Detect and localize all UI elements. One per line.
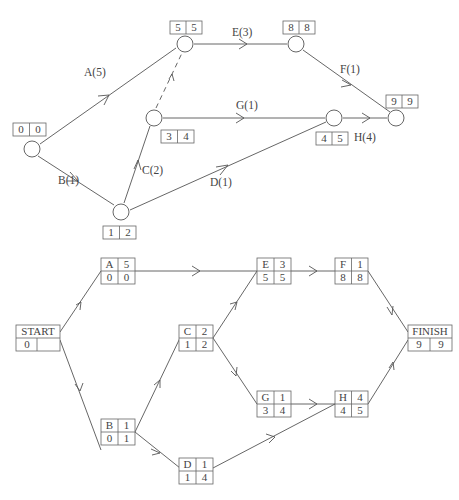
node-e: E 3 5 5 <box>257 258 291 284</box>
svg-text:8: 8 <box>304 21 310 33</box>
svg-text:9: 9 <box>407 95 413 107</box>
activity-d-label: D(1) <box>210 176 232 189</box>
svg-text:8: 8 <box>357 271 363 283</box>
top-network: A(5) B(1) C(2) D(1) E(3) F(1) G(1) H(4) … <box>13 21 418 239</box>
node-a: A 5 0 0 <box>101 258 135 284</box>
activity-g-label: G(1) <box>236 99 258 112</box>
event-node-1 <box>24 141 40 157</box>
svg-text:4: 4 <box>280 404 286 416</box>
svg-text:5: 5 <box>357 404 363 416</box>
activity-h-label: H(4) <box>354 131 376 144</box>
activity-c-label: C(2) <box>142 164 163 177</box>
arrow-icon <box>76 302 81 310</box>
event-node-5 <box>288 36 304 52</box>
bottom-network: START 0 A 5 0 0 B 1 0 1 <box>16 258 452 484</box>
event-node-3 <box>146 110 162 126</box>
svg-text:4: 4 <box>357 391 363 403</box>
activity-e-label: E(3) <box>232 26 253 39</box>
svg-text:1: 1 <box>124 419 130 431</box>
time-box-node-5: 8 8 <box>283 21 315 34</box>
svg-text:1: 1 <box>185 471 191 483</box>
svg-text:1: 1 <box>280 391 286 403</box>
edge-start-b <box>60 340 101 450</box>
node-b: B 1 0 1 <box>101 419 135 445</box>
node-g: G 1 3 4 <box>257 391 291 417</box>
svg-text:5: 5 <box>280 271 286 283</box>
svg-text:2: 2 <box>202 325 208 337</box>
svg-text:0: 0 <box>124 271 130 283</box>
time-box-node-6: 4 5 <box>316 132 348 145</box>
node-finish: FINISH 9 9 <box>408 325 452 351</box>
svg-text:3: 3 <box>263 404 269 416</box>
svg-text:0: 0 <box>35 123 41 135</box>
time-box-node-2: 5 5 <box>170 21 202 34</box>
svg-text:5: 5 <box>124 258 130 270</box>
svg-text:8: 8 <box>288 21 294 33</box>
svg-text:4: 4 <box>321 132 327 144</box>
activity-f-edge <box>303 50 390 112</box>
svg-text:5: 5 <box>191 21 197 33</box>
time-box-node-3: 3 4 <box>161 130 194 143</box>
activity-f-label: F(1) <box>340 63 360 76</box>
activity-b-label: B(1) <box>58 174 79 187</box>
network-diagrams: A(5) B(1) C(2) D(1) E(3) F(1) G(1) H(4) … <box>0 0 459 500</box>
svg-text:START: START <box>21 325 55 337</box>
svg-text:3: 3 <box>166 130 172 142</box>
svg-text:5: 5 <box>175 21 181 33</box>
svg-text:F: F <box>340 258 346 270</box>
svg-text:5: 5 <box>337 132 343 144</box>
dummy-activity-edge <box>156 53 182 108</box>
svg-text:4: 4 <box>202 471 208 483</box>
svg-text:A: A <box>106 258 114 270</box>
edge-f-finish <box>368 271 408 332</box>
svg-text:C: C <box>184 325 191 337</box>
node-f: F 1 8 8 <box>335 258 368 284</box>
svg-text:E: E <box>262 258 269 270</box>
svg-text:D: D <box>184 458 192 470</box>
svg-text:1: 1 <box>108 226 114 238</box>
arrow-icon <box>231 367 237 376</box>
svg-text:G: G <box>262 391 270 403</box>
svg-text:4: 4 <box>340 404 346 416</box>
node-d: D 1 1 4 <box>179 458 213 484</box>
svg-text:5: 5 <box>263 271 269 283</box>
svg-text:FINISH: FINISH <box>412 325 448 337</box>
event-node-7 <box>388 110 404 126</box>
svg-text:8: 8 <box>340 271 346 283</box>
edge-c-g <box>213 338 257 404</box>
svg-text:2: 2 <box>125 226 131 238</box>
svg-text:3: 3 <box>280 258 286 270</box>
svg-text:9: 9 <box>391 95 397 107</box>
node-start: START 0 <box>16 325 60 351</box>
node-h: H 4 4 5 <box>335 391 368 417</box>
svg-text:0: 0 <box>18 123 24 135</box>
svg-text:1: 1 <box>124 432 130 444</box>
time-box-node-4: 1 2 <box>103 226 136 239</box>
activity-a-label: A(5) <box>84 66 106 79</box>
arrow-icon <box>266 434 275 443</box>
svg-text:1: 1 <box>185 338 191 350</box>
edge-b-d <box>135 432 180 468</box>
svg-text:2: 2 <box>202 338 208 350</box>
time-box-node-1: 0 0 <box>13 123 46 136</box>
svg-text:0: 0 <box>24 338 30 350</box>
svg-text:B: B <box>106 419 113 431</box>
svg-text:H: H <box>339 391 347 403</box>
svg-text:0: 0 <box>107 271 113 283</box>
svg-text:9: 9 <box>416 338 422 350</box>
event-node-4 <box>113 204 129 220</box>
event-node-6 <box>326 110 342 126</box>
event-node-2 <box>177 36 193 52</box>
svg-text:9: 9 <box>438 338 444 350</box>
edge-c-e <box>213 271 257 338</box>
edge-h-finish <box>368 340 408 404</box>
arrow-icon <box>134 160 141 170</box>
arrow-icon <box>151 449 160 455</box>
node-c: C 2 1 2 <box>179 325 213 351</box>
svg-text:0: 0 <box>107 432 113 444</box>
svg-text:4: 4 <box>183 130 189 142</box>
time-box-node-7: 9 9 <box>386 95 418 108</box>
svg-text:1: 1 <box>202 458 208 470</box>
edge-start-a <box>60 271 101 332</box>
svg-text:1: 1 <box>357 258 363 270</box>
